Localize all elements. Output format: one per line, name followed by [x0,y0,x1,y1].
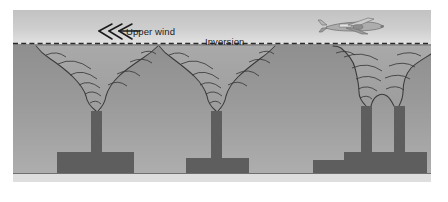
plume-left [35,46,159,111]
plume-right [333,46,431,106]
upper-wind-label: Upper wind [126,26,175,37]
inversion-label: Inversion [205,36,244,47]
source-right-double-stack [313,106,427,173]
diagram-scene: Upper wind Inversion [0,0,448,202]
source-center-single-stack [186,111,249,173]
source-left-single-stack [57,111,134,173]
airplane-icon [318,18,384,34]
plume-center [158,46,276,111]
diagram-frame: Upper wind Inversion [13,10,431,182]
